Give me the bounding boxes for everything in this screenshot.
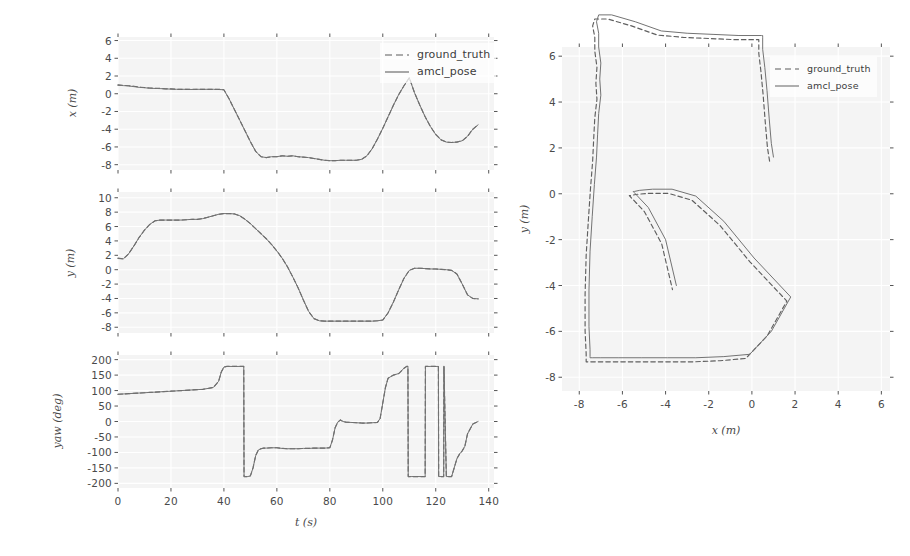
ytick-label: -200 (78, 477, 112, 489)
xtick-label: 40 (217, 495, 231, 507)
legend-x-vs-t: ground_truth amcl_pose (380, 43, 496, 83)
ytick-label: 6 (78, 35, 112, 47)
ytick-label: -8 (78, 321, 112, 333)
xtick-label: 140 (478, 495, 499, 507)
ytick-label: 4 (78, 235, 112, 247)
solid-line-swatch-icon (384, 67, 410, 77)
legend-label-amcl-pose: amcl_pose (807, 80, 859, 91)
xtick-label: 6 (878, 398, 885, 410)
ytick-label: 0 (78, 88, 112, 100)
ytick-label: -4 (78, 123, 112, 135)
xtick-label: 60 (270, 495, 284, 507)
dashed-line-swatch-icon (774, 64, 800, 74)
xtick-label: 120 (425, 495, 446, 507)
ytick-label: 8 (78, 206, 112, 218)
xtick-label: 100 (372, 495, 393, 507)
ytick-label: 2 (522, 142, 556, 154)
ytick-label: -4 (522, 280, 556, 292)
legend-row-amcl-pose: amcl_pose (774, 77, 871, 94)
ytick-label: -6 (78, 307, 112, 319)
axes-y-vs-t (118, 192, 494, 333)
xtick-label: 2 (792, 398, 799, 410)
ytick-label: 0 (78, 416, 112, 428)
ytick-label: 10 (78, 192, 112, 204)
axis-label-t-s: t (s) (295, 516, 317, 529)
xtick-label: 0 (748, 398, 755, 410)
ytick-label: -4 (78, 292, 112, 304)
ytick-label: -8 (522, 371, 556, 383)
legend-row-amcl-pose: amcl_pose (384, 63, 490, 80)
legend-label-ground-truth: ground_truth (807, 63, 871, 74)
solid-line-swatch-icon (774, 81, 800, 91)
ytick-label: -50 (78, 431, 112, 443)
xtick-label: 0 (115, 495, 122, 507)
xtick-label: -2 (703, 398, 714, 410)
legend-row-ground-truth: ground_truth (774, 60, 871, 77)
axis-label-yaw-deg: yaw (deg) (51, 394, 64, 449)
xtick-label: 20 (164, 495, 178, 507)
ytick-label: -150 (78, 462, 112, 474)
ytick-label: -2 (78, 278, 112, 290)
ytick-label: -6 (78, 141, 112, 153)
ytick-label: 4 (78, 52, 112, 64)
figure-root: 6420-2-4-6-8 x (m) ground_truth amcl_pos… (0, 0, 910, 556)
ytick-label: 0 (522, 188, 556, 200)
ytick-label: 150 (78, 369, 112, 381)
legend-label-amcl-pose: amcl_pose (417, 65, 477, 78)
ytick-label: 6 (78, 221, 112, 233)
axis-label-x-m: x (m) (66, 89, 79, 118)
xtick-label: 4 (835, 398, 842, 410)
ytick-label: 50 (78, 400, 112, 412)
xtick-label: -6 (617, 398, 628, 410)
axes-yaw-vs-t (118, 355, 494, 488)
ytick-label: -2 (522, 234, 556, 246)
axis-label-traj-x-m: x (m) (712, 424, 741, 437)
ytick-label: 2 (78, 249, 112, 261)
axis-label-traj-y-m: y (m) (518, 205, 531, 234)
xtick-label: -8 (574, 398, 585, 410)
xtick-label: 80 (323, 495, 337, 507)
ytick-label: -8 (78, 159, 112, 171)
ytick-label: 100 (78, 385, 112, 397)
dashed-line-swatch-icon (384, 50, 410, 60)
ytick-label: 200 (78, 354, 112, 366)
legend-label-ground-truth: ground_truth (417, 48, 490, 61)
xtick-label: -4 (660, 398, 671, 410)
ytick-label: -100 (78, 446, 112, 458)
ytick-label: -6 (522, 325, 556, 337)
ytick-label: -2 (78, 105, 112, 117)
ytick-label: 4 (522, 96, 556, 108)
ytick-label: 6 (522, 50, 556, 62)
legend-trajectory: ground_truth amcl_pose (770, 57, 877, 97)
axis-label-y-m: y (m) (64, 249, 77, 278)
legend-row-ground-truth: ground_truth (384, 46, 490, 63)
axes-trajectory-xy (562, 47, 890, 391)
ytick-label: 0 (78, 264, 112, 276)
ytick-label: 2 (78, 70, 112, 82)
